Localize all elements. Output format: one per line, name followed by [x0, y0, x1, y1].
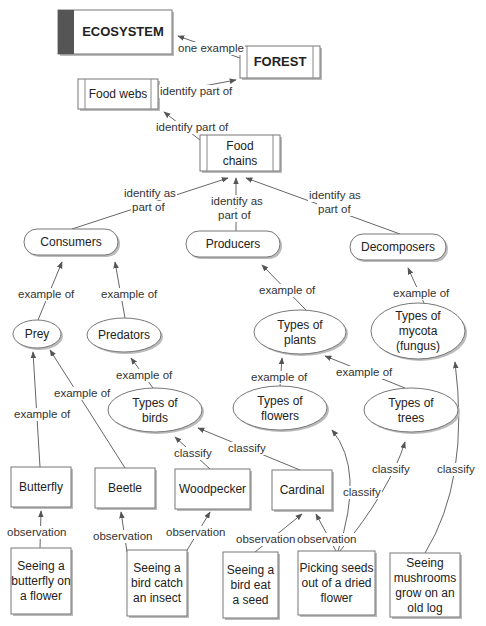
node-label: Predators — [98, 328, 150, 342]
node-label: mycota — [399, 324, 438, 338]
edge-label: identify as — [124, 187, 176, 199]
node-cardinal[interactable]: Cardinal — [272, 470, 334, 512]
node-label: Butterfly — [19, 480, 63, 494]
node-label: out of a dried — [301, 576, 371, 590]
node-label: an insect — [133, 591, 182, 605]
node-label: ECOSYSTEM — [82, 24, 164, 39]
edge-label: example of — [393, 287, 450, 299]
edge-label: example of — [116, 369, 173, 381]
node-food-webs[interactable]: Food webs — [78, 79, 160, 111]
node-woodpecker[interactable]: Woodpecker — [175, 469, 252, 511]
edge-label: classify — [228, 442, 266, 454]
node-obs-mushrooms[interactable]: Seeingmushroomsgrow on anold log — [390, 553, 462, 619]
nodes-layer: ECOSYSTEMFORESTFood websFoodchainsConsum… — [11, 10, 467, 620]
edge-label: example of — [54, 387, 111, 399]
node-obs-bird-seed[interactable]: Seeing abird eata seed — [223, 552, 280, 620]
concept-map: ECOSYSTEMFORESTFood websFoodchainsConsum… — [0, 0, 486, 626]
node-label: plants — [284, 333, 316, 347]
node-label: a flower — [20, 589, 62, 603]
edge-label: identify as — [309, 189, 361, 201]
edge-label: example of — [251, 371, 308, 383]
edge-label: classify — [343, 486, 381, 498]
node-butterfly[interactable]: Butterfly — [11, 467, 73, 509]
node-label: Beetle — [108, 481, 142, 495]
edge-label: part of — [218, 209, 251, 221]
node-label: FOREST — [254, 54, 307, 69]
edge-label: example of — [259, 284, 316, 296]
node-producers[interactable]: Producers — [186, 231, 282, 259]
node-ecosystem[interactable]: ECOSYSTEM — [58, 10, 174, 56]
node-label: Seeing — [406, 556, 443, 570]
node-label: mushrooms — [394, 571, 457, 585]
node-label: birds — [142, 411, 168, 425]
edge-label: classify — [372, 463, 410, 475]
node-obs-butterfly[interactable]: Seeing abutterfly ona flower — [11, 548, 73, 616]
node-label: bird eat — [230, 578, 271, 592]
node-label: Prey — [25, 327, 50, 341]
edge-label: classify — [437, 463, 475, 475]
node-label: Food webs — [89, 87, 148, 101]
node-food-chains[interactable]: Foodchains — [200, 135, 282, 173]
node-label: Types of — [257, 394, 303, 408]
node-decomposers[interactable]: Decomposers — [350, 234, 448, 262]
node-beetle[interactable]: Beetle — [95, 468, 157, 510]
node-label: flowers — [261, 409, 299, 423]
node-forest[interactable]: FOREST — [240, 46, 322, 80]
edge-label: example of — [336, 366, 393, 378]
edge-label: example of — [101, 288, 158, 300]
edge-label: identify part of — [156, 121, 229, 133]
node-label: Decomposers — [361, 240, 435, 254]
edge-label: observation — [93, 530, 152, 542]
edge-label: observation — [297, 533, 356, 545]
node-label: (fungus) — [396, 339, 440, 353]
node-label: Consumers — [40, 235, 101, 249]
node-label: Types of — [388, 396, 434, 410]
node-label: bird catch — [131, 576, 183, 590]
node-types-of-birds[interactable]: Types ofbirds — [108, 388, 204, 434]
edge-label: example of — [18, 288, 75, 300]
node-obs-seeds[interactable]: Picking seedsout of a driedflower — [298, 551, 377, 617]
node-label: Seeing a — [17, 559, 65, 573]
node-prey[interactable]: Prey — [13, 320, 63, 350]
node-label: Types of — [277, 318, 323, 332]
title-accent-bar — [58, 10, 74, 54]
node-label: Cardinal — [280, 483, 325, 497]
node-label: a seed — [232, 593, 268, 607]
node-label: Woodpecker — [179, 482, 246, 496]
node-label: chains — [223, 154, 258, 168]
node-types-of-mycota[interactable]: Types ofmycota(fungus) — [371, 303, 467, 361]
node-label: grow on an — [395, 586, 454, 600]
node-types-of-flowers[interactable]: Types offlowers — [233, 386, 329, 432]
node-types-of-plants[interactable]: Types ofplants — [254, 310, 348, 356]
edge-label: identify part of — [160, 85, 233, 97]
edge-label: observation — [236, 533, 295, 545]
edge-label: observation — [7, 526, 66, 538]
node-label: Producers — [206, 237, 261, 251]
node-label: Types of — [395, 309, 441, 323]
edge-label: observation — [166, 526, 225, 538]
node-types-of-trees[interactable]: Types oftrees — [364, 388, 460, 434]
node-label: Types of — [132, 396, 178, 410]
node-label: trees — [398, 411, 425, 425]
node-label: old log — [407, 601, 442, 615]
edge-label: identify as — [211, 195, 263, 207]
node-label: flower — [320, 591, 352, 605]
node-label: Seeing a — [227, 563, 275, 577]
node-label: butterfly on — [11, 574, 70, 588]
edge-label: example of — [14, 408, 71, 420]
node-obs-bird-insect[interactable]: Seeing abird catchan insect — [127, 550, 189, 618]
edge-label: classify — [174, 447, 212, 459]
node-predators[interactable]: Predators — [87, 318, 163, 354]
edge-label: part of — [132, 201, 165, 213]
node-label: Seeing a — [133, 561, 181, 575]
edge-label: part of — [318, 203, 351, 215]
node-label: Picking seeds — [299, 561, 373, 575]
edge-label: one example — [178, 42, 244, 54]
node-label: Food — [226, 139, 253, 153]
node-consumers[interactable]: Consumers — [24, 229, 120, 257]
